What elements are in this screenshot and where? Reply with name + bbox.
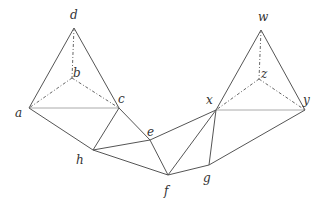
edge-zy	[259, 79, 305, 110]
edge-dc	[74, 28, 119, 108]
edge-ex	[150, 110, 216, 140]
label-x: x	[206, 93, 213, 107]
graph-diagram: d b a c h e f g x y w z	[0, 0, 325, 211]
label-y: y	[303, 93, 310, 107]
edge-ce	[119, 108, 150, 140]
label-f: f	[164, 184, 168, 198]
label-a: a	[15, 106, 22, 120]
label-c: c	[118, 92, 125, 106]
edges-layer	[0, 0, 325, 211]
edge-ba	[29, 78, 72, 108]
label-w: w	[258, 10, 268, 24]
edge-bc	[72, 78, 119, 108]
edge-he	[93, 140, 150, 150]
label-h: h	[76, 153, 84, 167]
edge-ad	[29, 28, 74, 108]
label-g: g	[203, 171, 211, 185]
edge-zx	[216, 79, 259, 110]
label-z: z	[261, 67, 267, 81]
label-e: e	[147, 125, 154, 139]
label-d: d	[70, 8, 78, 22]
edge-wy	[261, 30, 305, 110]
edge-hc	[93, 108, 119, 150]
label-b: b	[73, 66, 81, 80]
edge-gy	[209, 110, 305, 165]
edge-ah	[29, 108, 93, 150]
edge-xw	[216, 30, 261, 110]
